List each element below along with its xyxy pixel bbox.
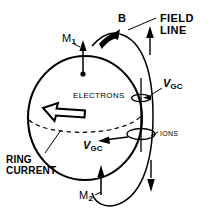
electrons-label: ELECTRONS — [73, 92, 125, 100]
mirror-point-m2-label: M2 — [79, 190, 93, 203]
mirror-point-m1-marker — [79, 40, 86, 77]
ions-label: IONS — [160, 130, 178, 137]
field-line-leader — [128, 18, 156, 30]
mirror-point-m2-marker — [97, 165, 104, 195]
vgc-top-leader — [151, 88, 162, 95]
ring-current-leader — [45, 130, 61, 153]
figure-canvas: FIELDLINE B M1 VGC ELECTRONS IONS VGC RI… — [0, 0, 209, 217]
field-line-arrow-down — [147, 160, 155, 192]
drift-velocity-bottom-label: VGC — [83, 140, 102, 153]
magnetic-field-label: B — [118, 13, 126, 25]
mirror-point-m1-label: M1 — [62, 33, 76, 46]
ring-current-label: RINGCURRENT — [6, 155, 56, 176]
b-vector-arrow — [99, 29, 120, 49]
m2-leader — [95, 192, 101, 195]
ring-current-arrow — [43, 103, 85, 121]
field-line-arrow-up — [146, 26, 154, 55]
field-line-label: FIELDLINE — [160, 13, 194, 36]
ion-drift-arrow — [98, 137, 128, 145]
drift-velocity-top-label: VGC — [163, 78, 182, 91]
